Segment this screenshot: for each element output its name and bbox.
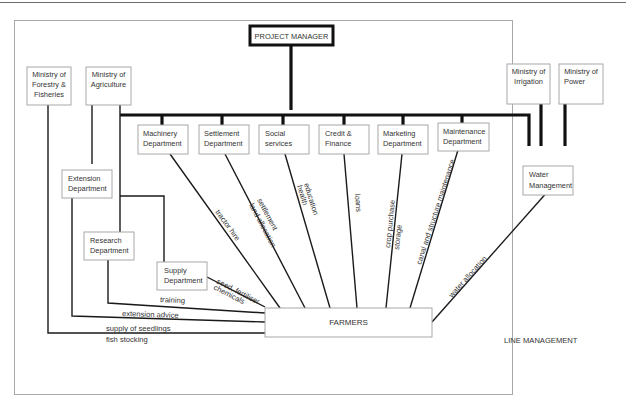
credit-flow-line bbox=[344, 154, 357, 308]
social-flow-line bbox=[285, 154, 330, 308]
credit-finance-box: Credit & Finance bbox=[319, 125, 369, 154]
line-management-label: LINE MANAGEMENT bbox=[504, 336, 578, 345]
flow-label-storage: storage bbox=[392, 224, 404, 250]
water-flow-line bbox=[432, 190, 549, 322]
svg-text:Forestry &: Forestry & bbox=[32, 80, 66, 89]
svg-text:Marketing: Marketing bbox=[383, 129, 415, 138]
machinery-department-box: Machinery Department bbox=[138, 125, 188, 154]
svg-text:Finance: Finance bbox=[325, 139, 351, 148]
farmers-label: FARMERS bbox=[329, 318, 368, 327]
svg-text:Ministry of: Ministry of bbox=[92, 70, 127, 79]
svg-text:Water: Water bbox=[529, 170, 549, 179]
svg-text:Department: Department bbox=[143, 139, 182, 148]
svg-text:Power: Power bbox=[564, 77, 585, 86]
flow-label-loans: loans bbox=[353, 194, 363, 213]
flow-label-tractor-hire: tractor hire bbox=[213, 208, 242, 243]
ministry-agriculture-box: Ministry of Agriculture bbox=[86, 67, 131, 105]
svg-text:Department: Department bbox=[443, 137, 482, 146]
water-management-box: Water Management bbox=[523, 166, 573, 195]
maintenance-department-box: Maintenance Department bbox=[438, 123, 489, 151]
svg-text:Research: Research bbox=[90, 236, 122, 245]
ministry-forestry-box: Ministry of Forestry & Fisheries bbox=[27, 67, 71, 105]
svg-text:Machinery: Machinery bbox=[143, 129, 177, 138]
supply-department-box: Supply Department bbox=[157, 262, 207, 290]
svg-text:Maintenance: Maintenance bbox=[443, 127, 485, 136]
marketing-department-box: Marketing Department bbox=[378, 125, 428, 154]
svg-text:Credit &: Credit & bbox=[325, 129, 352, 138]
social-services-box: Social services bbox=[259, 125, 309, 154]
svg-text:Ministry of: Ministry of bbox=[512, 67, 547, 76]
svg-text:Department: Department bbox=[383, 139, 422, 148]
svg-text:Department: Department bbox=[204, 139, 243, 148]
svg-text:Extension: Extension bbox=[68, 174, 100, 183]
svg-text:Ministry of: Ministry of bbox=[564, 67, 599, 76]
svg-text:Fisheries: Fisheries bbox=[34, 90, 64, 99]
flow-label-supply-of-seedlings: supply of seedlings bbox=[106, 324, 171, 333]
flow-label-training: training bbox=[160, 295, 185, 305]
svg-text:Settlement: Settlement bbox=[204, 129, 239, 138]
svg-text:Irrigation: Irrigation bbox=[514, 77, 543, 86]
flow-label-water-allocation: water allocation bbox=[446, 254, 489, 300]
svg-text:services: services bbox=[265, 139, 292, 148]
ministry-power-box: Ministry of Power bbox=[559, 64, 603, 104]
svg-text:Department: Department bbox=[90, 246, 129, 255]
svg-text:Supply: Supply bbox=[164, 266, 187, 275]
org-diagram: PROJECT MANAGER Ministry of Forestry & F… bbox=[0, 0, 626, 404]
extension-department-box: Extension Department bbox=[62, 170, 112, 198]
flow-label-fish-stocking: fish stocking bbox=[106, 335, 148, 344]
flow-label-canal-maintenance: canal and structure maintenance bbox=[414, 158, 457, 266]
svg-text:Social: Social bbox=[265, 129, 285, 138]
svg-text:Agriculture: Agriculture bbox=[91, 80, 126, 89]
svg-text:Department: Department bbox=[68, 184, 107, 193]
svg-text:Department: Department bbox=[164, 276, 203, 285]
svg-text:Ministry of: Ministry of bbox=[32, 70, 67, 79]
settlement-department-box: Settlement Department bbox=[199, 125, 249, 154]
project-manager-label: PROJECT MANAGER bbox=[255, 32, 329, 41]
svg-text:Management: Management bbox=[529, 181, 572, 190]
research-department-box: Research Department bbox=[84, 232, 134, 260]
ministry-irrigation-box: Ministry of Irrigation bbox=[507, 64, 550, 104]
